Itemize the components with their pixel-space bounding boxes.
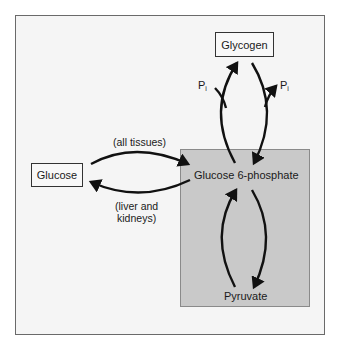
arrow-glycogen-to-g6p — [252, 63, 267, 163]
arrows-layer — [0, 0, 341, 350]
pi-right-branch — [265, 86, 276, 107]
arrow-g6p-to-pyruvate — [252, 190, 266, 287]
arrow-g6p-to-glucose — [91, 180, 190, 193]
arrow-glucose-to-g6p — [91, 152, 188, 164]
arrow-pyruvate-to-g6p — [222, 190, 236, 287]
arrow-g6p-to-glycogen — [221, 63, 237, 163]
